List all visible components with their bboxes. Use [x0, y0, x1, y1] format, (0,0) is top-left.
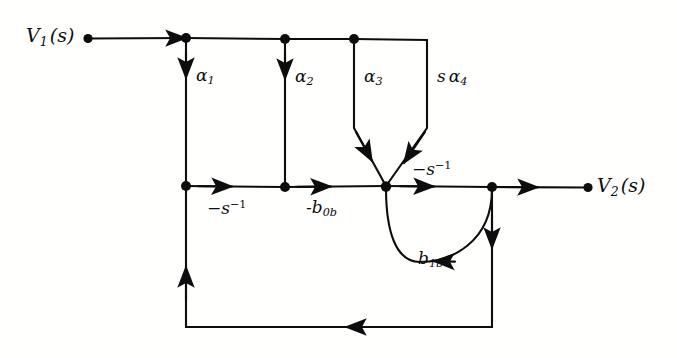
gain-label-alpha3: α3: [364, 68, 383, 87]
neg-b0b-base: -b: [306, 197, 323, 217]
node-n3: [349, 34, 359, 44]
alpha3-sub: 3: [375, 75, 382, 88]
neg-s-inv-left-sup: −1: [230, 198, 247, 211]
alpha3-base: α: [364, 66, 375, 86]
gain-label-b1b: b1b: [418, 250, 443, 269]
gain-label-alpha1: α1: [196, 67, 215, 86]
gain-label-s-alpha4: sα4: [437, 68, 467, 87]
output-terminal-var: V: [597, 174, 611, 196]
alpha1-base: α: [196, 65, 207, 85]
b1b-sub: 1b: [429, 257, 443, 270]
input-terminal-sub: 1: [40, 34, 48, 49]
node-v1: [83, 34, 92, 43]
b1b-base: b: [418, 248, 429, 268]
node-m1: [181, 181, 191, 191]
node-m2: [280, 182, 290, 192]
node-n1: [181, 33, 191, 43]
alpha1-sub: 1: [207, 74, 214, 87]
branch-input-to-n1: [88, 38, 186, 39]
s-alpha4-prefix: s: [437, 66, 446, 86]
node-junction: [381, 181, 391, 191]
neg-b0b-sub: 0b: [323, 206, 337, 219]
neg-s-inv-right-sup: −1: [435, 159, 452, 172]
node-v2: [583, 183, 592, 192]
branch-n3-to-corner: [354, 39, 427, 40]
branch-n1-to-n2: [186, 38, 285, 39]
gain-label-neg-s-inv-left: −s−1: [207, 199, 247, 217]
node-n2: [280, 34, 290, 44]
signal-flow-graph-figure: V1(s) V2(s) α1 α2 α3 sα4 −s−1 -b0b −s−1 …: [0, 0, 677, 358]
input-terminal-label: V1(s): [26, 26, 74, 48]
input-terminal-var: V: [26, 24, 40, 46]
signal-flow-graph-canvas: [0, 0, 677, 358]
gain-label-alpha2: α2: [295, 68, 314, 87]
s-alpha4-sub: 4: [460, 75, 467, 88]
input-terminal-arg: (s): [50, 24, 75, 46]
output-terminal-arg: (s): [621, 174, 646, 196]
branch-alpha3-line: [354, 39, 386, 186]
output-terminal-sub: 2: [611, 184, 619, 199]
branch-alpha3-arrowhead: [356, 132, 372, 161]
gain-label-neg-b0b: -b0b: [306, 199, 337, 218]
neg-s-inv-right-base: −s: [412, 159, 435, 179]
s-alpha4-base: α: [449, 66, 460, 86]
output-terminal-label: V2(s): [597, 176, 645, 198]
node-m4: [487, 182, 497, 192]
alpha2-sub: 2: [306, 75, 313, 88]
gain-label-neg-s-inv-right: −s−1: [412, 160, 452, 178]
alpha2-base: α: [295, 66, 306, 86]
neg-s-inv-left-base: −s: [207, 198, 230, 218]
